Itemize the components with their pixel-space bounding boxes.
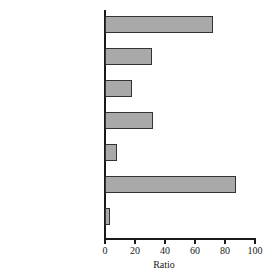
bar-row: Food stores <box>105 80 255 97</box>
bar-row: Electrical equipment <box>105 144 255 161</box>
bar <box>105 112 153 129</box>
x-axis-line <box>104 238 256 240</box>
x-axis-title-label: Ratio <box>153 259 175 270</box>
x-axis-tick <box>164 239 166 244</box>
bar <box>105 144 117 161</box>
x-axis-title: Ratio <box>0 259 270 270</box>
bar <box>105 16 213 33</box>
x-axis-tick <box>254 239 256 244</box>
x-axis-tick-label: 20 <box>120 245 150 256</box>
plot-area: Eating & drinkingMotion picturesFood sto… <box>105 10 255 238</box>
x-axis-tick-label: 60 <box>180 245 210 256</box>
bar-row: Eating & drinking <box>105 16 255 33</box>
x-axis-tick-label: 80 <box>210 245 240 256</box>
bar <box>105 176 236 193</box>
x-axis-tick <box>104 239 106 244</box>
x-axis-tick-label: 100 <box>240 245 270 256</box>
x-axis-tick-label: 40 <box>150 245 180 256</box>
bar-chart: Eating & drinkingMotion picturesFood sto… <box>0 0 270 276</box>
bar <box>105 208 110 225</box>
bar <box>105 48 152 65</box>
x-axis-tick <box>134 239 136 244</box>
x-axis-tick <box>224 239 226 244</box>
bar-row: Motion pictures <box>105 48 255 65</box>
x-axis-tick-label: 0 <box>90 245 120 256</box>
bar-row: General merchandise <box>105 208 255 225</box>
bar <box>105 80 132 97</box>
x-axis-tick <box>194 239 196 244</box>
bar-row: Printing & publishing <box>105 112 255 129</box>
bar-row: Educational services <box>105 176 255 193</box>
